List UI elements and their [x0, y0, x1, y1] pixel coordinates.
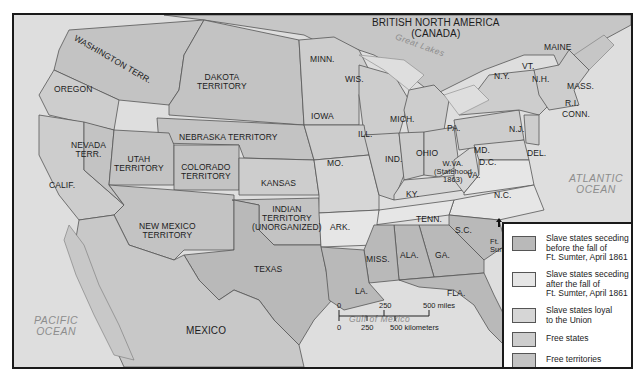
scale-miles-0: 0: [337, 301, 341, 310]
label-canada: BRITISH NORTH AMERICA(CANADA): [372, 17, 500, 39]
label-utah: UTAHTERRITORY: [114, 155, 164, 173]
label-nebraska: NEBRASKA TERRITORY: [179, 133, 278, 142]
label-michigan: MICH.: [390, 115, 415, 124]
label-kentucky: KY.: [406, 190, 419, 199]
label-oregon: OREGON: [54, 85, 92, 94]
label-atlantic-ocean: ATLANTICOCEAN: [569, 173, 623, 195]
label-iowa: IOWA: [311, 112, 334, 121]
label-nevada: NEVADATERR.: [71, 141, 106, 159]
label-ohio: OHIO: [416, 149, 438, 158]
region-new-jersey: [524, 115, 539, 145]
legend-swatch: [512, 272, 536, 287]
label-north-carolina: N.C.: [494, 191, 511, 200]
label-indian-territory: INDIANTERRITORY(UNORGANIZED): [252, 205, 322, 232]
label-massachusetts: MASS.: [567, 82, 594, 91]
region-missouri: [314, 155, 379, 213]
label-tennessee: TENN.: [416, 215, 442, 224]
region-kansas: [239, 158, 319, 195]
label-kansas: KANSAS: [261, 179, 296, 188]
label-georgia: GA.: [435, 251, 450, 260]
label-colorado: COLORADOTERRITORY: [181, 163, 231, 181]
map-frame: BRITISH NORTH AMERICA(CANADA) Great Lake…: [12, 13, 633, 369]
label-new-mexico: NEW MEXICOTERRITORY: [139, 222, 196, 240]
label-wisconsin: WIS.: [345, 75, 364, 84]
label-dakota: DAKOTATERRITORY: [197, 73, 247, 91]
label-indiana: IND.: [385, 155, 402, 164]
legend-item-slave-seceding-after: Slave states secedingafter the fall ofFt…: [512, 270, 629, 299]
label-delaware: DEL.: [527, 149, 546, 158]
label-mississippi: MISS.: [366, 255, 390, 264]
label-maine: MAINE: [544, 43, 571, 52]
label-mexico: MEXICO: [186, 325, 226, 336]
scale-miles-500: 500 miles: [423, 301, 455, 310]
scale-km-0: 0: [337, 323, 341, 332]
label-minnesota: MINN.: [310, 55, 335, 64]
label-texas: TEXAS: [254, 265, 282, 274]
scale-km-500: 500 kilometers: [390, 323, 439, 332]
label-pennsylvania: PA.: [447, 124, 460, 133]
label-dc: D.C.: [479, 158, 496, 167]
label-alabama: ALA.: [400, 251, 419, 260]
legend-item-free-territories: Free territories: [512, 351, 601, 368]
label-connecticut: CONN.: [562, 110, 590, 119]
legend-swatch: [512, 332, 536, 347]
label-california: CALIF.: [49, 181, 75, 190]
scale-miles-250: 250: [379, 301, 392, 310]
label-new-york: N.Y.: [494, 72, 510, 81]
label-illinois: ILL.: [358, 130, 373, 139]
scale-bar: 0 250 500 miles 0 250 500 kilometers: [337, 301, 477, 341]
scale-km-250: 250: [361, 323, 374, 332]
label-florida: FLA.: [447, 289, 465, 298]
scale-ruler: [337, 310, 432, 322]
label-new-jersey: N.J.: [509, 125, 525, 134]
label-rhode-island: R.I.: [565, 99, 579, 108]
label-maryland: MD.: [474, 146, 490, 155]
label-louisiana: LA.: [355, 287, 368, 296]
label-arkansas: ARK.: [330, 223, 350, 232]
legend-item-slave-loyal: Slave states loyalto the Union: [512, 306, 612, 325]
legend-item-free-states: Free states: [512, 330, 589, 347]
label-pacific-ocean: PACIFICOCEAN: [34, 315, 78, 337]
legend-swatch: [512, 353, 536, 368]
label-new-hampshire: N.H.: [532, 75, 549, 84]
legend-item-slave-seceding-before: Slave states secedingbefore the fall ofF…: [512, 234, 629, 263]
label-virginia: VA.: [467, 171, 480, 180]
legend-swatch: [512, 236, 536, 251]
label-south-carolina: S.C.: [455, 226, 472, 235]
label-missouri: MO.: [327, 159, 343, 168]
legend-swatch: [512, 308, 536, 323]
legend: Slave states secedingbefore the fall ofF…: [502, 222, 633, 369]
label-vermont: VT.: [522, 62, 535, 71]
